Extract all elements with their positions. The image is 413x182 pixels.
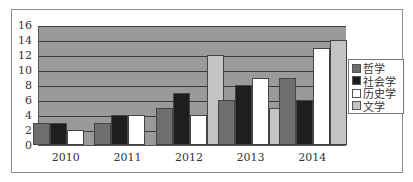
bar-2011-2	[128, 115, 145, 145]
x-tick-label: 2011	[107, 151, 147, 164]
legend-swatch-icon	[352, 64, 361, 73]
x-tick-label: 2013	[231, 151, 271, 164]
y-tick-label: 16	[8, 20, 32, 32]
bar-2013-1	[235, 85, 252, 145]
y-tick-label: 14	[8, 35, 32, 47]
bar-2014-3	[330, 40, 347, 145]
legend-label: 文学	[363, 98, 385, 114]
plot-area	[38, 26, 346, 146]
legend-swatch-icon	[352, 76, 361, 85]
bar-2011-1	[111, 115, 128, 145]
bar-2013-0	[218, 100, 235, 145]
bar-2013-2	[252, 78, 269, 146]
bar-2011-0	[94, 123, 111, 146]
legend: 哲学社会学历史学文学	[348, 59, 404, 114]
gridline	[39, 86, 346, 87]
legend-swatch-icon	[352, 89, 361, 98]
y-tick-label: 2	[8, 125, 32, 137]
y-tick-label: 8	[8, 80, 32, 92]
bar-2012-2	[190, 115, 207, 145]
legend-item: 文学	[352, 100, 400, 113]
y-tick-label: 6	[8, 95, 32, 107]
gridline	[39, 41, 346, 42]
bar-2010-0	[33, 123, 50, 146]
x-tick-label: 2014	[292, 151, 332, 164]
y-tick-label: 12	[8, 50, 32, 62]
bar-2014-2	[313, 48, 330, 146]
y-tick-label: 4	[8, 110, 32, 122]
bar-2012-0	[156, 108, 173, 146]
y-tick-label: 0	[8, 140, 32, 152]
bar-2010-2	[67, 130, 84, 145]
legend-swatch-icon	[352, 101, 361, 110]
bar-2010-1	[50, 123, 67, 146]
bar-2014-1	[296, 100, 313, 145]
gridline	[39, 26, 346, 27]
x-tick-label: 2012	[169, 151, 209, 164]
bar-2014-0	[279, 78, 296, 146]
x-tick-label: 2010	[46, 151, 86, 164]
bar-2012-1	[173, 93, 190, 146]
gridline	[39, 71, 346, 72]
y-tick-label: 10	[8, 65, 32, 77]
gridline	[39, 56, 346, 57]
